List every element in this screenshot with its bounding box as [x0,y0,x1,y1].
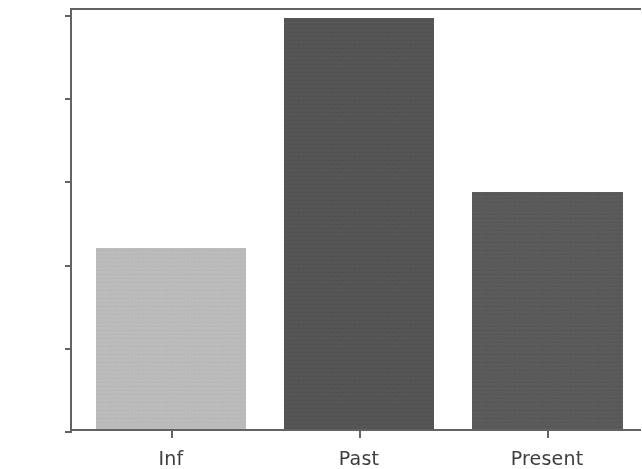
y-tick-4000 [65,265,72,267]
y-tick-10000 [65,15,72,17]
y-tick-0 [65,431,72,433]
bar-inf[interactable] [96,248,246,429]
bar-inf-grain [96,248,246,429]
bar-past-grain [284,18,434,429]
plot-area: 0 2000 4000 6000 8000 10000 Inf Past Pre… [70,8,641,431]
y-tick-6000 [65,181,72,183]
y-tick-2000 [65,348,72,350]
bar-present[interactable] [472,192,623,429]
bar-present-grain [472,192,623,429]
x-tick-inf [171,430,173,438]
x-tick-present [547,430,549,438]
bar-past[interactable] [284,18,434,429]
x-tick-past [359,430,361,438]
x-tick-label-past: Past [339,447,379,469]
x-tick-label-present: Present [511,447,584,469]
x-tick-label-inf: Inf [159,447,184,469]
y-tick-8000 [65,98,72,100]
